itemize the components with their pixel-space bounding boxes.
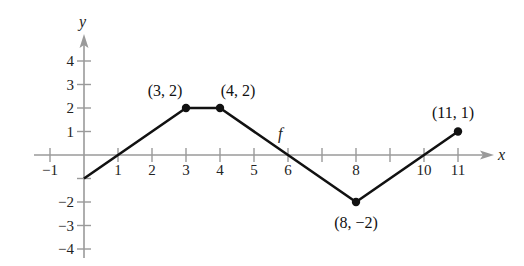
- x-tick-label: 11: [451, 162, 465, 178]
- y-tick-label: −4: [58, 241, 74, 257]
- y-tick-label: −3: [58, 218, 74, 234]
- x-tick-label: 2: [148, 162, 156, 178]
- data-point: [352, 198, 360, 206]
- y-tick-label: 4: [67, 53, 75, 69]
- x-tick-label: 10: [417, 162, 432, 178]
- y-tick-label: 1: [67, 124, 75, 140]
- x-tick-label: 6: [284, 162, 292, 178]
- point-label: (8, −2): [334, 214, 378, 232]
- y-axis-label: y: [77, 13, 87, 31]
- point-labels: (3, 2)(4, 2)(8, −2)(11, 1): [148, 82, 474, 232]
- x-tick-label: 1: [114, 162, 122, 178]
- y-tick-label: −2: [58, 194, 74, 210]
- data-point: [454, 127, 462, 135]
- x-tick-label: 8: [352, 162, 360, 178]
- y-tick-label: 2: [67, 100, 75, 116]
- function-graph: −1123456810114321−2−3−4 (3, 2)(4, 2)(8, …: [0, 0, 524, 266]
- x-axis-label: x: [497, 146, 505, 163]
- data-point: [216, 104, 224, 112]
- x-tick-label: 3: [182, 162, 190, 178]
- function-label-f: f: [278, 125, 285, 143]
- point-label: (3, 2): [148, 82, 183, 100]
- y-tick-label: 3: [67, 77, 75, 93]
- x-tick-label: 5: [250, 162, 258, 178]
- axes: [34, 34, 494, 258]
- point-label: (4, 2): [221, 82, 256, 100]
- data-point: [182, 104, 190, 112]
- x-tick-label: −1: [42, 162, 58, 178]
- point-label: (11, 1): [432, 104, 474, 122]
- x-tick-label: 4: [216, 162, 224, 178]
